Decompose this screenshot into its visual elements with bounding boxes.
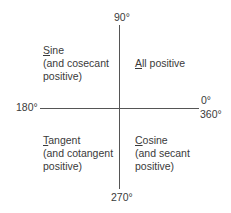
label-270: 270° [111, 191, 133, 204]
sine-rest: ine [50, 44, 64, 56]
cosine-line-1: (and secant [135, 147, 190, 160]
cosine-line-2: positive) [135, 160, 190, 173]
sine-line-1: (and cosecant [43, 57, 109, 70]
quadrant-all: All positive [135, 57, 185, 70]
cosine-rest: osine [143, 134, 168, 146]
quadrant-sine: Sine (and cosecant positive) [43, 44, 109, 83]
label-180: 180° [16, 101, 38, 114]
vertical-axis [119, 25, 120, 189]
sine-initial: S [43, 44, 50, 56]
tangent-line-2: positive) [43, 160, 113, 173]
all-rest: ll positive [142, 57, 185, 69]
label-0: 0° [201, 94, 211, 107]
tangent-rest: angent [48, 134, 80, 146]
cosine-initial: C [135, 134, 143, 146]
quadrant-tangent: Tangent (and cotangent positive) [43, 134, 113, 173]
label-90: 90° [114, 11, 130, 24]
all-initial: A [135, 57, 142, 69]
horizontal-axis [40, 108, 199, 109]
label-360: 360° [200, 108, 222, 121]
tangent-line-1: (and cotangent [43, 147, 113, 160]
quadrant-cosine: Cosine (and secant positive) [135, 134, 190, 173]
sine-line-2: positive) [43, 70, 109, 83]
